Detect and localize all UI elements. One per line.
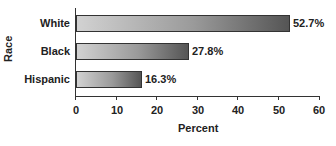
x-tick-label: 0	[66, 104, 86, 116]
bar-black	[76, 43, 189, 60]
category-label-white: White	[40, 15, 70, 32]
x-tick-label: 50	[269, 104, 289, 116]
x-axis-label: Percent	[178, 122, 218, 134]
value-label-white: 52.7%	[293, 15, 324, 32]
category-label-black: Black	[41, 43, 70, 60]
x-tick	[237, 96, 238, 100]
x-tick	[319, 96, 320, 100]
x-tick-label: 40	[228, 104, 248, 116]
value-label-hispanic: 16.3%	[145, 71, 176, 88]
x-tick	[75, 96, 76, 100]
x-tick-label: 30	[188, 104, 208, 116]
x-tick	[116, 96, 117, 100]
x-tick-label: 20	[147, 104, 167, 116]
y-axis-label: Race	[2, 36, 14, 62]
bar-hispanic	[76, 71, 142, 88]
x-tick-label: 60	[309, 104, 329, 116]
x-tick-label: 10	[107, 104, 127, 116]
x-tick	[156, 96, 157, 100]
x-tick	[197, 96, 198, 100]
category-label-hispanic: Hispanic	[24, 71, 70, 88]
x-tick	[278, 96, 279, 100]
value-label-black: 27.8%	[192, 43, 223, 60]
bar-white	[76, 15, 290, 32]
